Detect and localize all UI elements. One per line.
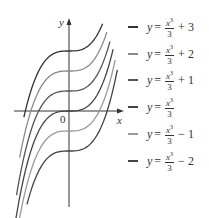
- legend-swatch: [128, 53, 138, 55]
- equation-lhs: y: [147, 154, 152, 169]
- fraction-numerator: x3: [165, 15, 174, 29]
- equals-sign: =: [154, 20, 161, 35]
- legend-item: y=x33+ 1: [128, 69, 194, 91]
- equation-lhs: y: [147, 73, 152, 88]
- legend-swatch: [128, 79, 138, 81]
- legend-equation: y=x33+ 1: [147, 68, 194, 92]
- fraction: x33: [165, 122, 174, 146]
- equals-sign: =: [154, 73, 161, 88]
- fraction-denominator: 3: [167, 29, 172, 39]
- fraction-denominator: 3: [167, 136, 172, 146]
- equation-lhs: y: [147, 20, 152, 35]
- equals-sign: =: [154, 47, 161, 62]
- plot-area: y x 0: [0, 0, 128, 218]
- legend-equation: y=x33+ 3: [147, 15, 194, 39]
- equation-constant: + 3: [178, 20, 194, 35]
- fraction-numerator: x3: [165, 122, 174, 136]
- legend-equation: y=x33− 1: [147, 122, 194, 146]
- fraction-numerator: x3: [165, 95, 174, 109]
- fraction: x33: [165, 15, 174, 39]
- fraction-numerator: x3: [165, 149, 174, 163]
- equation-constant: + 2: [178, 47, 194, 62]
- fraction-numerator: x3: [165, 42, 174, 56]
- fraction: x33: [165, 95, 174, 119]
- curve-group: [14, 24, 117, 218]
- legend-equation: y=x33: [147, 95, 176, 119]
- legend-equation: y=x33− 2: [147, 149, 194, 173]
- fraction-denominator: 3: [167, 56, 172, 66]
- curve-5: [27, 70, 117, 204]
- equation-lhs: y: [147, 47, 152, 62]
- equals-sign: =: [154, 127, 161, 142]
- y-axis-arrow-icon: [67, 18, 72, 25]
- equals-sign: =: [154, 100, 161, 115]
- legend-swatch: [128, 133, 138, 135]
- legend-swatch: [128, 160, 138, 162]
- fraction-denominator: 3: [167, 109, 172, 119]
- legend-item: y=x33: [128, 96, 176, 118]
- legend-swatch: [128, 26, 138, 28]
- legend-item: y=x33− 1: [128, 123, 194, 145]
- origin-label: 0: [60, 113, 66, 125]
- y-axis-label: y: [58, 16, 64, 28]
- fraction: x33: [165, 149, 174, 173]
- equation-constant: + 1: [178, 73, 194, 88]
- equals-sign: =: [154, 154, 161, 169]
- legend-item: y=x33+ 2: [128, 43, 194, 65]
- equation-lhs: y: [147, 127, 152, 142]
- fraction: x33: [165, 42, 174, 66]
- equation-constant: − 1: [178, 127, 194, 142]
- legend-item: y=x33+ 3: [128, 16, 194, 38]
- equation-constant: − 2: [178, 154, 194, 169]
- legend-item: y=x33− 2: [128, 150, 194, 172]
- x-axis-arrow-icon: [117, 109, 124, 114]
- legend-swatch: [128, 106, 138, 108]
- fraction-denominator: 3: [167, 163, 172, 173]
- x-axis-label: x: [116, 114, 122, 126]
- legend-equation: y=x33+ 2: [147, 42, 194, 66]
- equation-lhs: y: [147, 100, 152, 115]
- y-axis: [67, 18, 72, 207]
- fraction-numerator: x3: [165, 68, 174, 82]
- fraction: x33: [165, 68, 174, 92]
- fraction-denominator: 3: [167, 82, 172, 92]
